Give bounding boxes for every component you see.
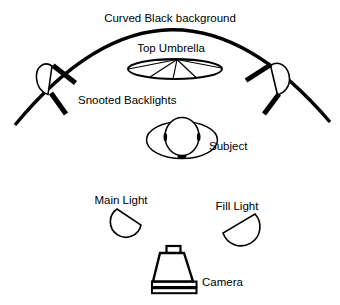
backlight-left-stand	[51, 93, 66, 114]
subject-figure	[147, 118, 218, 160]
backlight-right-snoot	[246, 65, 271, 81]
label-main-light: Main Light	[94, 194, 148, 206]
label-camera: Camera	[202, 276, 244, 288]
subject-head	[165, 118, 199, 156]
lighting-diagram: Curved Black background Top Umbrella Sno…	[0, 0, 340, 305]
backlight-right-body	[271, 63, 290, 95]
backlight-right	[246, 63, 290, 114]
top-umbrella	[128, 59, 222, 79]
fill-light-shape	[223, 214, 260, 246]
label-fill-light: Fill Light	[216, 200, 260, 212]
label-top-umbrella: Top Umbrella	[137, 42, 205, 54]
label-curved-background: Curved Black background	[104, 12, 236, 24]
camera-figure	[152, 246, 197, 293]
camera-base-bottom	[152, 288, 197, 293]
label-subject: Subject	[209, 140, 248, 152]
label-snooted-backlights: Snooted Backlights	[78, 94, 177, 106]
backlight-right-stand	[264, 94, 279, 114]
camera-body	[153, 253, 193, 282]
diagram-canvas: Curved Black background Top Umbrella Sno…	[0, 0, 340, 305]
subject-ear-right	[197, 133, 201, 141]
main-light-shape	[110, 209, 141, 237]
subject-ear-left	[164, 133, 168, 141]
